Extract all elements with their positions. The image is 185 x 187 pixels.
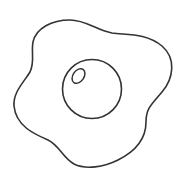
fried-egg-icon [0,0,185,187]
yolk-outline [63,60,122,119]
illustration-canvas: fried egg line drawing [0,0,185,187]
yolk-highlight [69,66,87,85]
egg-white-outline [14,20,172,167]
